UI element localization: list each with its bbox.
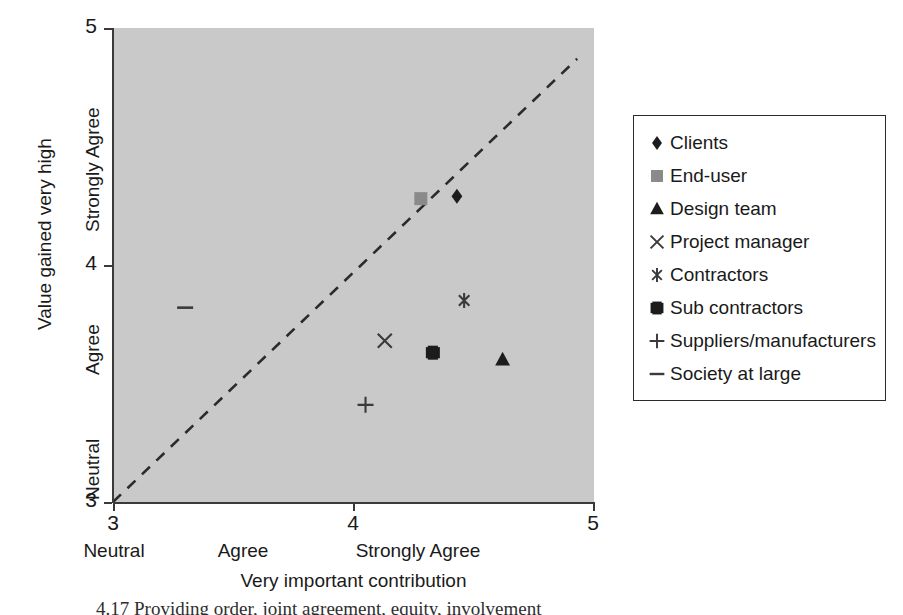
x-icon [644,230,670,254]
legend-box: ClientsEnd-userDesign teamProject manage… [633,115,886,401]
y-tick-3 [104,502,112,504]
y-axis-title: Value gained very high [34,138,56,330]
legend-item-suppliers-manufacturers[interactable]: Suppliers/manufacturers [634,324,885,357]
scatter-chart-figure: Clients (4.43, 4.29)End-user (4.28, 4.28… [0,0,903,615]
legend-item-label: Design team [670,198,777,220]
square-gray-icon [644,164,670,188]
data-point: Contractors (4.46, 3.85) [459,293,470,308]
plus-icon [644,329,670,353]
triangle-icon [644,197,670,221]
legend-item-label: End-user [670,165,747,187]
legend-item-label: Sub contractors [670,297,803,319]
y-tick-5 [104,28,112,30]
x-tick-4 [353,503,355,511]
data-point: Sub contractors (4.33, 3.63) [426,346,440,360]
dash-icon [644,362,670,386]
y-category-agree: Agree [82,324,104,375]
y-axis-line [112,28,114,503]
data-point: Clients (4.43, 4.29) [452,189,463,204]
y-category-strongly-agree: Strongly Agree [82,107,104,232]
x-tick-label-4: 4 [333,511,373,535]
legend-item-label: Suppliers/manufacturers [670,330,876,352]
x-tick-label-3: 3 [93,511,133,535]
legend-item-label: Project manager [670,231,809,253]
plot-svg: Clients (4.43, 4.29)End-user (4.28, 4.28… [113,28,594,502]
x-category-strongly-agree: Strongly Agree [338,540,498,562]
data-point: Project manager (4.13, 3.68) [378,334,392,348]
legend-item-label: Society at large [670,363,801,385]
diagonal-reference-line [113,59,577,502]
legend-item-design-team[interactable]: Design team [634,192,885,225]
legend-item-end-user[interactable]: End-user [634,159,885,192]
caption-sliver: 4.17 Providing order, joint agreement, e… [96,598,796,615]
legend-item-label: Clients [670,132,728,154]
legend-item-project-manager[interactable]: Project manager [634,225,885,258]
legend-item-clients[interactable]: Clients [634,126,885,159]
legend-item-sub-contractors[interactable]: Sub contractors [634,291,885,324]
x-tick-3 [113,503,115,511]
legend-item-society-at-large[interactable]: Society at large [634,357,885,390]
data-points-group: Clients (4.43, 4.29)End-user (4.28, 4.28… [177,189,510,413]
y-tick-label-5: 5 [67,14,97,38]
legend-item-contractors[interactable]: Contractors [634,258,885,291]
asterisk-icon [644,263,670,287]
plot-area: Clients (4.43, 4.29)End-user (4.28, 4.28… [113,28,594,502]
x-tick-label-5: 5 [573,511,613,535]
x-axis-title: Very important contribution [113,570,594,592]
legend-item-label: Contractors [670,264,768,286]
y-tick-label-4: 4 [67,251,97,275]
data-point: End-user (4.28, 4.28) [414,192,427,205]
x-category-agree: Agree [193,540,293,562]
diamond-icon [644,131,670,155]
diagonal-dashed-line [113,59,577,502]
x-tick-5 [593,503,595,511]
y-tick-4 [104,265,112,267]
y-category-neutral: Neutral [82,439,104,500]
data-point: Suppliers/manufacturers (4.05, 3.41) [358,397,374,413]
data-point: Design team (4.62, 3.6) [495,352,510,366]
square-notched-icon [644,296,670,320]
x-category-neutral: Neutral [64,540,164,562]
